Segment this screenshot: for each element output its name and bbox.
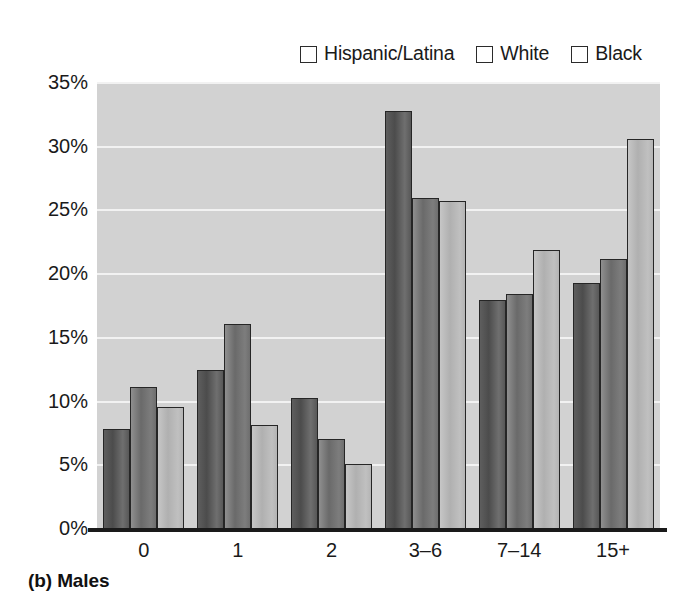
legend-swatch-icon bbox=[300, 46, 317, 63]
bar[interactable] bbox=[130, 387, 157, 528]
legend-item-black: Black bbox=[571, 44, 642, 64]
y-axis-tick-label: 0% bbox=[4, 518, 88, 538]
legend-item-white: White bbox=[476, 44, 549, 64]
bar-group bbox=[378, 82, 472, 528]
bar[interactable] bbox=[224, 324, 251, 528]
bar[interactable] bbox=[573, 283, 600, 528]
legend-label: Hispanic/Latina bbox=[324, 44, 454, 64]
bar[interactable] bbox=[479, 300, 506, 528]
bar-group bbox=[285, 82, 379, 528]
bar-group bbox=[97, 82, 191, 528]
legend-swatch-icon bbox=[571, 46, 588, 63]
bar[interactable] bbox=[385, 111, 412, 528]
x-axis-tick-label: 15+ bbox=[566, 538, 660, 566]
plot-area bbox=[97, 82, 660, 528]
x-axis-tick-label: 7–14 bbox=[472, 538, 566, 566]
bar-group bbox=[472, 82, 566, 528]
bar[interactable] bbox=[291, 398, 318, 528]
x-axis-tick-label: 0 bbox=[97, 538, 191, 566]
legend-item-hispanic-latina: Hispanic/Latina bbox=[300, 44, 454, 64]
y-axis-tick-label: 10% bbox=[4, 391, 88, 411]
y-axis-tick-label: 30% bbox=[4, 136, 88, 156]
bar[interactable] bbox=[103, 429, 130, 528]
y-axis-tick-label: 25% bbox=[4, 199, 88, 219]
y-axis-tick-label: 35% bbox=[4, 72, 88, 92]
bar[interactable] bbox=[600, 259, 627, 528]
bar[interactable] bbox=[439, 201, 466, 528]
bar[interactable] bbox=[412, 198, 439, 528]
bar-group bbox=[191, 82, 285, 528]
bars-layer bbox=[97, 82, 660, 528]
y-axis-tick-label: 5% bbox=[4, 454, 88, 474]
legend-label: Black bbox=[595, 44, 642, 64]
bar[interactable] bbox=[627, 139, 654, 528]
legend-label: White bbox=[500, 44, 549, 64]
x-axis-tick-label: 2 bbox=[285, 538, 379, 566]
legend-swatch-icon bbox=[476, 46, 493, 63]
bar[interactable] bbox=[197, 370, 224, 528]
y-axis: 0%5%10%15%20%25%30%35% bbox=[0, 0, 88, 601]
x-axis-line bbox=[88, 528, 667, 532]
bar[interactable] bbox=[533, 250, 560, 528]
chart-legend: Hispanic/Latina White Black bbox=[300, 42, 642, 66]
bar[interactable] bbox=[318, 439, 345, 528]
bar[interactable] bbox=[251, 425, 278, 528]
bar[interactable] bbox=[345, 464, 372, 528]
bar-group bbox=[566, 82, 660, 528]
figure-caption: (b) Males bbox=[28, 570, 109, 592]
x-axis-labels: 0123–67–1415+ bbox=[97, 538, 660, 566]
y-axis-tick-label: 15% bbox=[4, 327, 88, 347]
x-axis-tick-label: 3–6 bbox=[378, 538, 472, 566]
bar[interactable] bbox=[506, 294, 533, 528]
y-axis-tick-label: 20% bbox=[4, 263, 88, 283]
x-axis-tick-label: 1 bbox=[191, 538, 285, 566]
bar[interactable] bbox=[157, 407, 184, 528]
